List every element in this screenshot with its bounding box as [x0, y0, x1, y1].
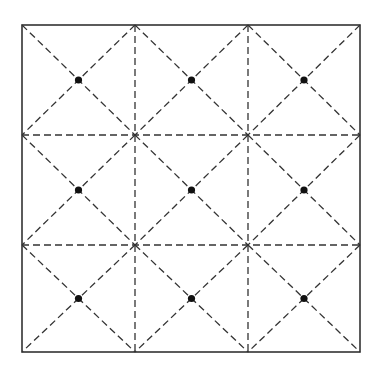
center-dot — [300, 295, 307, 302]
center-dot — [188, 76, 195, 83]
center-dot — [75, 76, 82, 83]
grid-diagram — [0, 0, 381, 378]
center-dot — [300, 76, 307, 83]
center-dot — [300, 186, 307, 193]
center-dot — [188, 295, 195, 302]
center-dot — [75, 186, 82, 193]
center-dot — [75, 295, 82, 302]
center-dot — [188, 186, 195, 193]
